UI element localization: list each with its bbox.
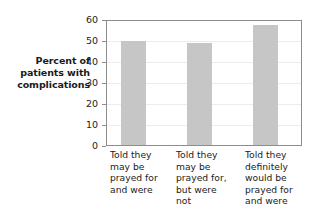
x-label-group-1: Told they may be prayed for and were bbox=[110, 149, 158, 195]
y-tick-30: 30 bbox=[0, 83, 106, 84]
y-tick-label-20: 20 bbox=[86, 97, 98, 110]
x-label-3-line-3: would be bbox=[245, 172, 293, 184]
y-tick-60: 60 bbox=[0, 20, 106, 21]
y-tick-label-10: 10 bbox=[86, 118, 98, 131]
plot-area bbox=[106, 20, 302, 146]
y-tick-label-50: 50 bbox=[86, 34, 98, 47]
x-label-3-line-2: definitely bbox=[245, 161, 293, 173]
bar-chart: Percent of patients with complications 6… bbox=[0, 0, 321, 218]
x-label-2-line-1: Told they bbox=[176, 149, 227, 161]
x-label-1-line-1: Told they bbox=[110, 149, 158, 161]
y-tick-label-60: 60 bbox=[86, 13, 98, 26]
y-tick-20: 20 bbox=[0, 104, 106, 105]
y-tick-50: 50 bbox=[0, 41, 106, 42]
y-tick-10: 10 bbox=[0, 125, 106, 126]
bar-told-definitely-would-be-prayed-for-and-were bbox=[253, 25, 278, 145]
x-label-group-2: Told they may be prayed for, but were no… bbox=[176, 149, 227, 207]
x-label-group-3: Told they definitely would be prayed for… bbox=[245, 149, 293, 207]
y-tick-label-30: 30 bbox=[86, 76, 98, 89]
y-tick-mark-0 bbox=[102, 146, 106, 147]
x-label-2-line-2: may be bbox=[176, 161, 227, 173]
x-label-3-line-5: and were bbox=[245, 195, 293, 207]
x-label-1-line-2: may be bbox=[110, 161, 158, 173]
y-tick-0: 0 bbox=[0, 146, 106, 147]
x-axis-labels: Told they may be prayed for and were Tol… bbox=[106, 149, 302, 218]
x-label-2-line-3: prayed for, bbox=[176, 172, 227, 184]
x-label-1-line-4: and were bbox=[110, 184, 158, 196]
bar-told-may-be-prayed-for-and-were bbox=[121, 41, 146, 145]
x-label-3-line-1: Told they bbox=[245, 149, 293, 161]
x-label-3-line-4: prayed for bbox=[245, 184, 293, 196]
x-label-2-line-5: not bbox=[176, 195, 227, 207]
bar-told-may-be-prayed-for-but-were-not bbox=[187, 43, 212, 145]
x-label-2-line-4: but were bbox=[176, 184, 227, 196]
y-axis: 60 50 40 30 20 10 0 bbox=[0, 20, 106, 146]
bars bbox=[107, 21, 301, 145]
y-tick-40: 40 bbox=[0, 62, 106, 63]
x-label-1-line-3: prayed for bbox=[110, 172, 158, 184]
y-tick-label-40: 40 bbox=[86, 55, 98, 68]
y-tick-label-0: 0 bbox=[92, 139, 98, 152]
